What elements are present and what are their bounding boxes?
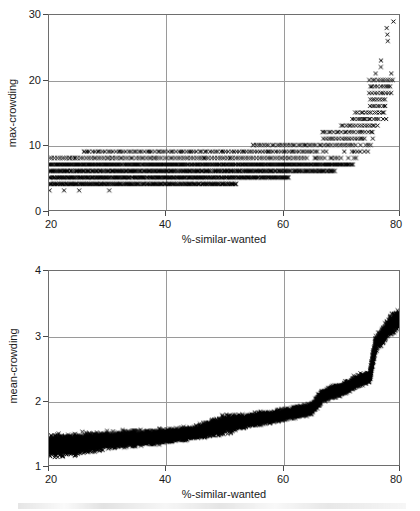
xtick-label-40: 40 (159, 474, 171, 485)
xtick-mark-80 (399, 466, 400, 471)
xtick-label-20: 20 (45, 474, 57, 485)
xaxis-title-mean-crowding: %-similar-wanted (48, 488, 400, 500)
yaxis-title-max-crowding: max-crowding (6, 68, 18, 158)
ytick-label-4: 4 (10, 265, 41, 276)
xtick-mark-60 (283, 211, 284, 216)
xtick-mark-40 (165, 211, 166, 216)
xtick-label-80: 80 (390, 219, 402, 230)
caption-partial-cutoff (18, 503, 406, 509)
xtick-label-40: 40 (159, 219, 171, 230)
xtick-mark-20 (48, 466, 49, 471)
xtick-mark-80 (399, 211, 400, 216)
ytick-mark-3 (43, 336, 48, 337)
ytick-mark-30 (43, 14, 48, 15)
xtick-label-60: 60 (277, 219, 289, 230)
xtick-mark-20 (48, 211, 49, 216)
ytick-label-1: 1 (10, 461, 41, 472)
xtick-label-80: 80 (390, 474, 402, 485)
xtick-label-20: 20 (45, 219, 57, 230)
ytick-mark-10 (43, 145, 48, 146)
figure-two-stacked-scatter-plots: 0 10 20 30 20 40 60 80 %-similar-wanted … (0, 0, 420, 511)
ytick-label-0: 0 (10, 206, 41, 217)
panel-max-crowding: 0 10 20 30 20 40 60 80 %-similar-wanted … (0, 0, 420, 250)
xtick-mark-60 (283, 466, 284, 471)
xaxis-title-max-crowding: %-similar-wanted (48, 233, 400, 245)
plot-area-mean-crowding (48, 270, 400, 466)
scatter-canvas-mean-crowding (49, 271, 399, 465)
ytick-mark-20 (43, 80, 48, 81)
ytick-mark-2 (43, 401, 48, 402)
xtick-label-60: 60 (277, 474, 289, 485)
yaxis-title-mean-crowding: mean-crowding (7, 319, 19, 414)
panel-mean-crowding: 1 2 3 4 20 40 60 80 %-similar-wanted mea… (0, 250, 420, 511)
plot-area-max-crowding (48, 14, 400, 211)
xtick-mark-40 (165, 466, 166, 471)
ytick-label-30: 30 (10, 9, 41, 20)
scatter-canvas-max-crowding (49, 15, 399, 210)
ytick-mark-4 (43, 270, 48, 271)
